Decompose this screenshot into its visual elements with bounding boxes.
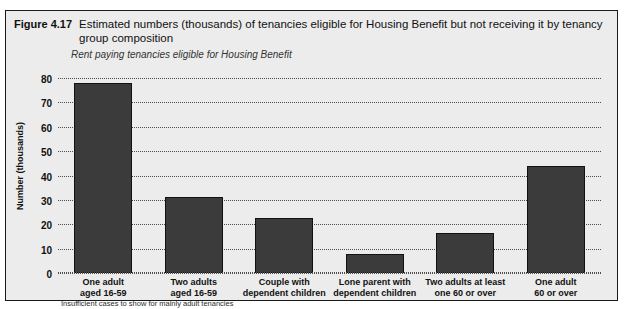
chart-footnote: Insufficient cases to show for mainly ad… <box>61 299 233 308</box>
y-axis-title: Number (thousands) <box>15 106 25 226</box>
y-axis-tick-label: 50 <box>41 147 52 158</box>
y-axis-tick-label: 40 <box>41 171 52 182</box>
x-axis-category-label-line: one 60 or over <box>420 288 511 299</box>
gridline: 0 <box>58 273 601 274</box>
x-axis-category-label-line: One adult <box>511 277 602 288</box>
gridline: 70 <box>58 102 601 103</box>
gridline: 10 <box>58 249 601 250</box>
x-axis-category-label-line: Two adults at least <box>420 277 511 288</box>
bar <box>74 83 132 273</box>
x-axis-category-label-line: dependent children <box>330 288 421 299</box>
plot-area: 01020304050607080 One adultaged 16-59Two… <box>58 78 601 273</box>
x-axis-category-label-line: aged 16-59 <box>149 288 240 299</box>
bar <box>165 197 223 273</box>
x-axis-line <box>58 272 601 273</box>
y-axis-tick-label: 80 <box>41 74 52 85</box>
gridline: 60 <box>58 127 601 128</box>
x-axis-category-label-line: dependent children <box>239 288 330 299</box>
chart-container: Number (thousands) 01020304050607080 One… <box>6 11 619 302</box>
y-axis-tick-label: 30 <box>41 195 52 206</box>
y-axis-tick-label: 60 <box>41 122 52 133</box>
x-axis-category-label-line: Two adults <box>149 277 240 288</box>
y-axis-tick-label: 20 <box>41 220 52 231</box>
gridline: 40 <box>58 176 601 177</box>
gridline: 80 <box>58 78 601 79</box>
x-axis-category-label-line: Couple with <box>239 277 330 288</box>
x-axis-category-label-line: 60 or over <box>511 288 602 299</box>
y-axis-tick-label: 0 <box>46 269 52 280</box>
y-axis-tick-label: 10 <box>41 244 52 255</box>
x-axis-category-label: One adult60 or over <box>511 277 602 298</box>
x-axis-category-label-line: Lone parent with <box>330 277 421 288</box>
gridline: 30 <box>58 200 601 201</box>
figure-panel: Figure 4.17 Estimated numbers (thousands… <box>5 10 618 301</box>
x-axis-category-label: One adultaged 16-59 <box>58 277 149 298</box>
x-axis-category-label: Couple withdependent children <box>239 277 330 298</box>
x-axis-category-label-line: One adult <box>58 277 149 288</box>
x-axis-category-label-line: aged 16-59 <box>58 288 149 299</box>
bar <box>436 233 494 273</box>
bar <box>527 166 585 273</box>
x-axis-category-label: Two adultsaged 16-59 <box>149 277 240 298</box>
x-axis-category-label: Lone parent withdependent children <box>330 277 421 298</box>
x-axis-category-label: Two adults at leastone 60 or over <box>420 277 511 298</box>
gridline: 20 <box>58 224 601 225</box>
bar <box>255 218 313 273</box>
y-axis-tick-label: 70 <box>41 98 52 109</box>
gridline: 50 <box>58 151 601 152</box>
bar <box>346 254 404 274</box>
